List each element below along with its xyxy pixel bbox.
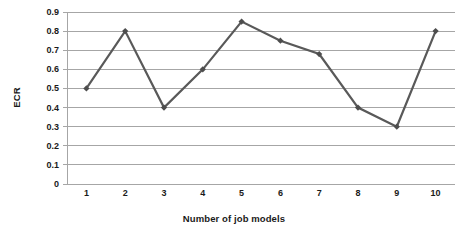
x-axis-tick-label: 3: [161, 188, 166, 198]
data-markers: [83, 18, 438, 129]
data-line: [86, 22, 435, 127]
x-axis-tick-label: 8: [355, 188, 360, 198]
plot-svg: [67, 12, 455, 184]
series-line-ecr: [86, 22, 435, 127]
plot-area: [67, 12, 455, 184]
y-axis-tick-label: 0.3: [46, 122, 59, 132]
y-axis-tick-label: 0.6: [46, 64, 59, 74]
y-axis-tick-label: 0.1: [46, 160, 59, 170]
x-axis-tick-label: 7: [317, 188, 322, 198]
x-axis-title: Number of job models: [0, 213, 468, 224]
y-axis-tick-label: 0.7: [46, 45, 59, 55]
y-axis-tick-label: 0.5: [46, 83, 59, 93]
y-axis-tick-labels: 00.10.20.30.40.50.60.70.80.9: [28, 12, 64, 184]
x-axis-tick-label: 10: [431, 188, 441, 198]
line-chart: ECR 00.10.20.30.40.50.60.70.80.9 1234567…: [0, 0, 468, 244]
y-axis-title: ECR: [2, 0, 30, 195]
x-axis-tick-label: 2: [123, 188, 128, 198]
x-axis-tick-label: 4: [200, 188, 205, 198]
x-axis-tick-label: 1: [84, 188, 89, 198]
y-axis-tick-label: 0.2: [46, 141, 59, 151]
x-axis-tick-labels: 12345678910: [67, 188, 455, 206]
x-axis-tick-label: 9: [394, 188, 399, 198]
y-axis-tick-label: 0.8: [46, 26, 59, 36]
data-point-marker: [433, 28, 439, 34]
y-axis-tick-label: 0: [54, 179, 59, 189]
x-axis-tick-label: 5: [239, 188, 244, 198]
y-axis-tick-label: 0.9: [46, 7, 59, 17]
y-axis-tick-label: 0.4: [46, 103, 59, 113]
y-axis-title-label: ECR: [10, 87, 21, 108]
x-axis-tick-label: 6: [278, 188, 283, 198]
gridlines: [67, 12, 455, 184]
